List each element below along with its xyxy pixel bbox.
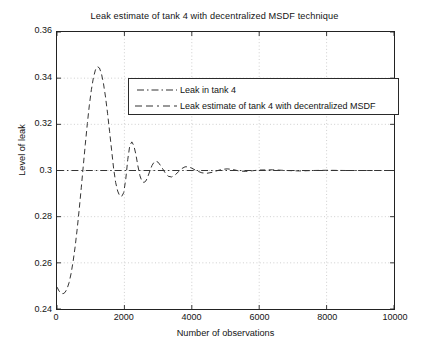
legend-label-1: Leak estimate of tank 4 with decentraliz… xyxy=(180,101,376,111)
figure-canvas: Leak estimate of tank 4 with decentraliz… xyxy=(0,0,429,352)
x-tick-label: 2000 xyxy=(114,313,134,322)
y-tick-label: 0.3 xyxy=(39,166,52,175)
legend-sample-dashdot xyxy=(135,84,177,96)
legend-item-1: Leak estimate of tank 4 with decentraliz… xyxy=(129,97,398,114)
legend-box: Leak in tank 4 Leak estimate of tank 4 w… xyxy=(128,78,399,115)
y-tick-label: 0.26 xyxy=(34,259,52,268)
x-axis-title: Number of observations xyxy=(56,328,395,338)
legend-sample-dashed xyxy=(135,100,177,112)
y-tick-label: 0.28 xyxy=(34,212,52,221)
plot-area xyxy=(56,31,395,310)
legend-label-0: Leak in tank 4 xyxy=(180,85,236,95)
x-tick-label: 6000 xyxy=(249,313,269,322)
y-axis-title: Level of leak xyxy=(17,100,27,200)
x-tick-label: 10000 xyxy=(382,313,407,322)
plot-svg xyxy=(57,32,394,309)
y-tick-label: 0.32 xyxy=(34,119,52,128)
x-tick-label: 8000 xyxy=(317,313,337,322)
x-tick-label: 4000 xyxy=(182,313,202,322)
legend-item-0: Leak in tank 4 xyxy=(129,81,398,98)
chart-title: Leak estimate of tank 4 with decentraliz… xyxy=(0,11,429,21)
y-tick-label: 0.24 xyxy=(34,305,52,314)
y-tick-label: 0.36 xyxy=(34,26,52,35)
x-tick-label: 0 xyxy=(53,313,58,322)
y-tick-label: 0.34 xyxy=(34,73,52,82)
